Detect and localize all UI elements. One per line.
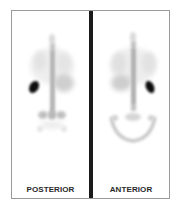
anterior-panel: ANTERIOR	[93, 11, 169, 198]
anterior-label: ANTERIOR	[93, 185, 169, 194]
posterior-scan-image	[12, 11, 89, 181]
posterior-panel: POSTERIOR	[12, 11, 89, 198]
posterior-label: POSTERIOR	[12, 185, 89, 194]
scan-figure: POSTERIOR	[11, 10, 170, 199]
anterior-scan-image	[93, 11, 169, 181]
